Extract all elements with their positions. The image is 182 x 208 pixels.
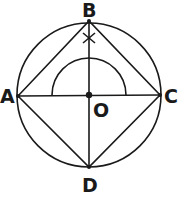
geometry-diagram: B A C D O — [0, 0, 182, 208]
label-c: C — [164, 85, 178, 107]
label-o: O — [93, 99, 109, 121]
label-a: A — [0, 85, 15, 107]
point-o-center — [86, 92, 92, 98]
point-a — [16, 94, 20, 98]
point-c — [158, 93, 162, 97]
label-b: B — [82, 0, 96, 21]
point-d — [87, 165, 91, 169]
label-d: D — [82, 174, 98, 196]
